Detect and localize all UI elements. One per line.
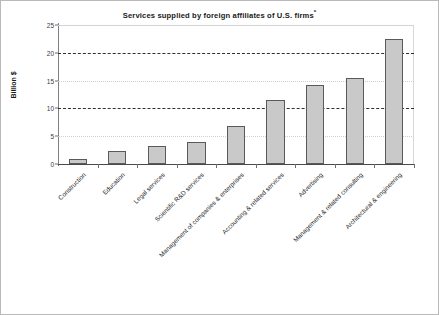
x-axis-category-label: Legal services	[132, 171, 166, 205]
y-axis-tick-label: 10	[47, 105, 54, 112]
chart-title-text: Services supplied by foreign affiliates …	[123, 11, 314, 20]
y-axis-tick-mark	[55, 164, 58, 165]
y-axis-tick-mark	[55, 80, 58, 81]
y-axis-tick-label: 25	[47, 22, 54, 29]
chart-title-footnote-marker: *	[314, 9, 317, 15]
y-axis-tick-label: 5	[50, 133, 54, 140]
y-axis-label: Billion $	[10, 71, 17, 98]
y-axis-tick-mark	[55, 25, 58, 26]
y-axis-tick-mark	[55, 52, 58, 53]
x-axis-tick-mark	[216, 164, 217, 168]
chart-figure: Services supplied by foreign affiliates …	[0, 0, 439, 315]
x-axis-spine	[58, 164, 415, 165]
y-axis-tick-mark	[55, 136, 58, 137]
chart-title: Services supplied by foreign affiliates …	[1, 9, 438, 20]
x-axis-category-label: Advertising	[297, 171, 324, 198]
y-axis-tick-label: 0	[50, 161, 54, 168]
gridline	[58, 25, 414, 26]
x-axis-category-label: Management & related consulting	[291, 171, 363, 243]
gridline	[58, 53, 414, 54]
x-axis-category-label: Construction	[56, 171, 86, 201]
x-axis-category-label: Education	[101, 171, 126, 196]
y-axis-tick-label: 15	[47, 77, 54, 84]
bar	[108, 151, 126, 164]
x-axis-category-label: Management of companies & enterprises	[158, 171, 245, 258]
bar	[346, 78, 364, 164]
bar	[69, 159, 87, 164]
y-axis-tick-mark	[55, 108, 58, 109]
bar	[148, 146, 166, 164]
y-axis-tick-label: 20	[47, 49, 54, 56]
